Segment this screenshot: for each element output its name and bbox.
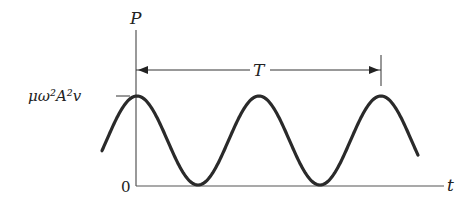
peak-value-label: μω²A²v [28, 87, 82, 105]
period-label: T [253, 60, 266, 80]
power-curve [102, 96, 418, 185]
x-axis-label: t [447, 175, 454, 195]
origin-label: 0 [121, 178, 131, 196]
arrowhead-left-icon [138, 66, 148, 74]
power-waveform-diagram: P t 0 μω²A²v T [0, 0, 466, 211]
arrowhead-right-icon [369, 66, 379, 74]
y-axis-label: P [129, 8, 142, 28]
